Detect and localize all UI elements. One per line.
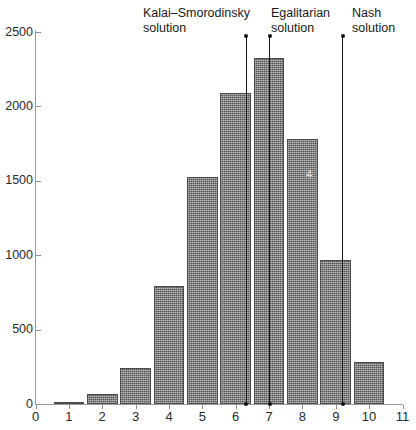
y-axis-tick-label: 500 bbox=[0, 323, 33, 336]
y-axis-tick bbox=[36, 330, 41, 331]
y-axis-tick-label-text: 2000 bbox=[3, 100, 33, 113]
annotation-endpoint-dot bbox=[341, 34, 345, 38]
bar bbox=[87, 394, 118, 404]
y-axis-tick bbox=[36, 404, 41, 405]
y-axis-tick bbox=[36, 255, 41, 256]
x-axis-tick-label: 8 bbox=[290, 410, 314, 424]
page-watermark: 4 bbox=[306, 168, 312, 180]
x-axis-tick-label: 10 bbox=[357, 410, 381, 424]
bar bbox=[154, 286, 185, 404]
annotation-label-nash: Nash solution bbox=[352, 6, 395, 35]
y-axis-tick-label: 1000 bbox=[0, 249, 33, 262]
y-axis-tick-label: 2000 bbox=[0, 100, 33, 113]
x-axis-tick-label: 6 bbox=[224, 410, 248, 424]
y-axis-line bbox=[35, 30, 36, 405]
annotation-endpoint-dot bbox=[244, 402, 248, 406]
annotation-line bbox=[342, 36, 343, 404]
bar-chart: 05001000150020002500 01234567891011 Kala… bbox=[0, 0, 416, 430]
x-axis-tick-label: 0 bbox=[24, 410, 48, 424]
y-axis-tick-label-text: 0 bbox=[3, 398, 33, 411]
bar bbox=[354, 362, 385, 404]
y-axis-tick bbox=[36, 181, 41, 182]
x-axis-tick-label: 1 bbox=[57, 410, 81, 424]
y-axis-tick-label: 0 bbox=[0, 398, 33, 411]
x-axis-tick-label: 9 bbox=[324, 410, 348, 424]
x-axis-tick-label: 3 bbox=[124, 410, 148, 424]
y-axis-tick bbox=[36, 32, 41, 33]
bar bbox=[187, 177, 218, 404]
x-axis-tick-label: 5 bbox=[190, 410, 214, 424]
bar bbox=[287, 139, 318, 404]
y-axis-tick-label-text: 500 bbox=[3, 323, 33, 336]
annotation-line bbox=[246, 36, 247, 404]
x-axis-tick-label: 4 bbox=[157, 410, 181, 424]
x-axis-tick-label: 2 bbox=[90, 410, 114, 424]
plot-area: 05001000150020002500 01234567891011 Kala… bbox=[0, 0, 416, 430]
bar bbox=[320, 260, 351, 404]
x-axis-tick-label: 11 bbox=[391, 410, 415, 424]
y-axis-tick-label-text: 2500 bbox=[3, 26, 33, 39]
annotation-label-kalai-smorodinsky: Kalai–Smorodinsky solution bbox=[143, 6, 250, 35]
x-axis-tick-label: 7 bbox=[257, 410, 281, 424]
annotation-label-egalitarian: Egalitarian solution bbox=[271, 6, 330, 35]
bar bbox=[54, 402, 85, 404]
x-axis-line bbox=[35, 404, 403, 405]
y-axis-tick bbox=[36, 106, 41, 107]
y-axis-tick-label: 2500 bbox=[0, 26, 33, 39]
y-axis-tick-label-text: 1000 bbox=[3, 249, 33, 262]
annotation-endpoint-dot bbox=[341, 402, 345, 406]
annotation-line bbox=[269, 36, 270, 404]
bar bbox=[120, 368, 151, 405]
y-axis-tick-label-text: 1500 bbox=[3, 174, 33, 187]
y-axis-tick-label: 1500 bbox=[0, 174, 33, 187]
annotation-endpoint-dot bbox=[268, 402, 272, 406]
